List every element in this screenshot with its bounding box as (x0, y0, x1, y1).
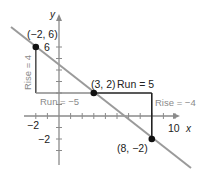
tick-label-y-neg2: −2 (38, 133, 50, 145)
run-right-label: Run = 5 (117, 78, 154, 90)
chart-svg: y x 6 −2 −2 10 (−2, 6) (3, 2) (8, −2) Ri… (0, 0, 201, 178)
point-neg2-6 (33, 44, 40, 51)
tick-label-x-neg2: −2 (27, 119, 39, 131)
x-axis-arrow-icon (173, 113, 180, 119)
tick-label-x-10: 10 (168, 122, 180, 134)
tick-label-y-6: 6 (44, 41, 50, 53)
point-label-neg2-6: (−2, 6) (27, 28, 58, 40)
run-left-label: Run = −5 (40, 96, 79, 107)
point-3-2 (91, 90, 98, 97)
slope-chart: y x 6 −2 −2 10 (−2, 6) (3, 2) (8, −2) Ri… (0, 0, 201, 178)
point-8-neg2 (149, 136, 156, 143)
rise-left-label: Rise = 4 (22, 55, 33, 90)
point-label-8-neg2: (8, −2) (117, 142, 148, 154)
x-axis-label: x (185, 123, 192, 134)
y-axis-arrow-icon (56, 14, 62, 21)
rise-right-label: Rise = −4 (155, 97, 196, 108)
point-label-3-2: (3, 2) (91, 78, 116, 90)
y-axis-label: y (49, 9, 56, 20)
